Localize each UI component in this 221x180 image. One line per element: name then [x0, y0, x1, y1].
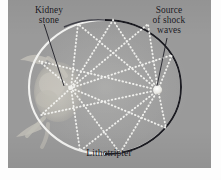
lithotripter-label: Lithotripter: [54, 148, 164, 158]
shock-wave-source-label: Source of shock waves: [136, 5, 202, 36]
kidney-stone-label: Kidney stone: [18, 5, 80, 25]
shock-wave-source-dot: [154, 86, 162, 94]
illustration-panel: Kidney stone Source of shock waves Litho…: [8, 0, 211, 168]
kidney-stone-focus-point: [68, 86, 72, 90]
figure-root: Kidney stone Source of shock waves Litho…: [0, 0, 221, 180]
